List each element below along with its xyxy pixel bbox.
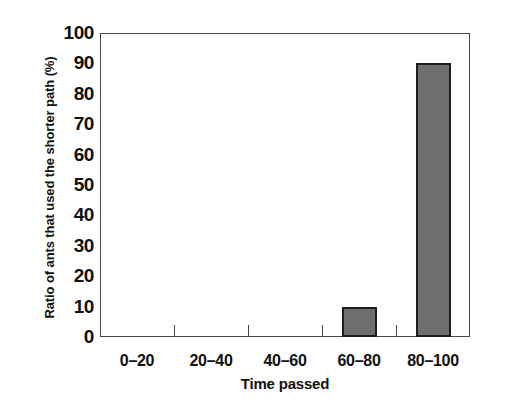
y-axis-tick-label: 60	[54, 145, 94, 164]
y-axis-tick-label: 30	[54, 236, 94, 255]
bar	[416, 63, 451, 337]
x-axis-tick-mark	[322, 325, 323, 336]
y-axis-tick-labels: 1009080706050403020100	[44, 0, 94, 412]
y-axis-tick-label: 90	[54, 53, 94, 72]
x-axis-tick-mark	[174, 325, 175, 336]
y-axis-tick-label: 50	[54, 175, 94, 194]
bar-chart-figure: Ratio of ants that used the shorter path…	[0, 0, 508, 412]
plot-area	[100, 33, 470, 337]
x-axis-category-label: 40–60	[248, 352, 322, 370]
y-axis-tick-label: 100	[54, 23, 94, 42]
x-axis-tick-mark	[248, 325, 249, 336]
x-axis-category-label: 20–40	[174, 352, 248, 370]
y-axis-tick-label: 40	[54, 205, 94, 224]
y-axis-tick-label: 20	[54, 266, 94, 285]
y-axis-tick-label: 70	[54, 114, 94, 133]
y-axis-tick-label: 80	[54, 84, 94, 103]
x-axis-category-label: 60–80	[322, 352, 396, 370]
x-axis-title: Time passed	[100, 375, 470, 392]
y-axis-tick-label: 10	[54, 297, 94, 316]
x-axis-category-label: 80–100	[396, 352, 470, 370]
x-axis-category-label: 0–20	[100, 352, 174, 370]
y-axis-tick-label: 0	[54, 327, 94, 346]
x-axis-tick-mark	[396, 325, 397, 336]
bar	[342, 307, 377, 337]
